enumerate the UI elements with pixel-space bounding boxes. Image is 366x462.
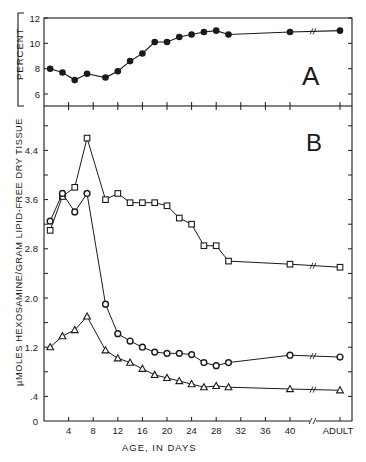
data-point-filled-circle	[337, 27, 344, 34]
data-point-open-square	[201, 243, 207, 249]
data-point-open-square	[47, 228, 53, 234]
y-tick-label: 12	[29, 13, 40, 24]
data-point-open-circle	[164, 350, 170, 356]
panel-b: 0.41.22.02.83.64.4481216202428323640ADUL…	[25, 106, 354, 436]
series-line-triangles	[50, 316, 340, 390]
data-point-open-square	[164, 203, 170, 209]
y-tick-label: 2.0	[25, 293, 38, 304]
panel-b-label: B	[306, 129, 322, 156]
data-point-open-square	[115, 191, 121, 197]
data-point-open-square	[189, 221, 195, 227]
data-point-open-square	[287, 261, 293, 267]
x-tick-label: 20	[162, 425, 173, 436]
data-point-filled-circle	[213, 27, 220, 34]
data-point-open-triangle	[213, 382, 220, 388]
y-tick-label: 4.4	[25, 145, 38, 156]
data-point-open-circle	[201, 360, 207, 366]
data-point-open-circle	[84, 191, 90, 197]
data-point-open-circle	[140, 344, 146, 350]
data-point-filled-circle	[59, 69, 66, 76]
data-point-open-square	[213, 243, 219, 249]
data-point-open-circle	[337, 354, 343, 360]
y-tick-label: 0	[33, 416, 38, 427]
data-point-open-triangle	[102, 347, 109, 353]
data-point-open-circle	[127, 338, 133, 344]
data-point-open-square	[152, 200, 158, 206]
data-point-open-circle	[189, 352, 195, 358]
data-point-open-square	[127, 200, 133, 206]
data-point-open-circle	[103, 301, 109, 307]
x-tick-label: 32	[236, 425, 247, 436]
data-point-filled-circle	[287, 29, 294, 36]
data-point-open-circle	[60, 191, 66, 197]
data-point-open-circle	[72, 209, 78, 215]
panel-a-label: A	[302, 61, 320, 91]
data-point-filled-circle	[71, 77, 78, 84]
data-point-filled-circle	[151, 39, 158, 46]
data-point-open-circle	[47, 218, 53, 224]
data-point-open-square	[140, 200, 146, 206]
x-tick-label: 24	[186, 425, 197, 436]
data-point-filled-circle	[225, 31, 232, 38]
y-tick-label: 1.2	[25, 342, 38, 353]
data-point-open-square	[177, 215, 183, 221]
y-axis-label-a: PERCENT	[14, 28, 25, 80]
y-axis-label-b: µMOLES HEXOSAMINE/GRAM LIPID-FREE DRY TI…	[14, 118, 24, 386]
y-tick-label: 6	[35, 89, 40, 100]
y-tick-label: 2.8	[25, 243, 38, 254]
data-point-filled-circle	[164, 39, 171, 46]
series-line-circles	[50, 193, 340, 365]
panel-a: 681012	[18, 13, 352, 107]
x-tick-label: ADULT	[323, 425, 354, 436]
x-tick-label: 16	[137, 425, 148, 436]
x-tick-label: 12	[113, 425, 124, 436]
data-point-open-square	[84, 135, 90, 141]
data-point-open-square	[226, 258, 232, 264]
x-tick-label: 4	[66, 425, 71, 436]
figure: 681012 0.41.22.02.83.64.4481216202428323…	[0, 0, 366, 462]
y-tick-label: 3.6	[25, 194, 38, 205]
y-tick-label: .4	[30, 391, 38, 402]
data-point-filled-circle	[176, 34, 183, 41]
data-point-open-triangle	[59, 333, 66, 339]
data-point-open-circle	[287, 352, 293, 358]
data-point-filled-circle	[84, 70, 91, 77]
x-tick-label: 8	[91, 425, 96, 436]
data-point-open-triangle	[151, 371, 158, 377]
data-point-open-triangle	[84, 313, 91, 319]
data-point-filled-circle	[102, 74, 109, 81]
data-point-open-triangle	[139, 365, 146, 371]
data-point-open-square	[337, 264, 343, 270]
series-line-squares	[50, 138, 340, 267]
x-tick-label: 40	[285, 425, 296, 436]
data-point-open-square	[103, 197, 109, 203]
data-point-open-circle	[176, 350, 182, 356]
x-tick-label: 36	[260, 425, 271, 436]
y-tick-label: 10	[29, 38, 40, 49]
data-point-filled-circle	[47, 65, 54, 72]
series-line-percent	[50, 31, 340, 80]
data-point-filled-circle	[127, 58, 134, 65]
y-tick-label: 8	[35, 63, 40, 74]
data-point-open-circle	[115, 331, 121, 337]
data-point-open-circle	[213, 363, 219, 369]
data-point-filled-circle	[201, 29, 208, 36]
data-point-open-square	[72, 185, 78, 191]
x-axis-label: AGE, IN DAYS	[122, 442, 197, 453]
data-point-open-triangle	[114, 355, 121, 361]
data-point-filled-circle	[115, 68, 122, 75]
data-point-open-circle	[226, 360, 232, 366]
data-point-open-circle	[152, 349, 158, 355]
x-tick-label: 28	[211, 425, 222, 436]
data-point-filled-circle	[139, 50, 146, 57]
data-point-filled-circle	[188, 31, 195, 38]
